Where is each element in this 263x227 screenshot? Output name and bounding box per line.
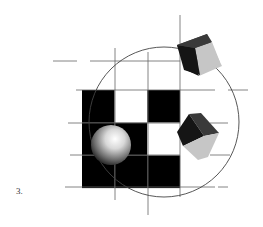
- cube-right: [177, 113, 219, 160]
- figure-label: 3.: [16, 186, 23, 196]
- grid-cell-0-0-black: [82, 90, 115, 123]
- grid-cell-1-2-white: [147, 123, 180, 156]
- grid-cell-0-1-white: [115, 90, 148, 123]
- cube-top-right: [177, 34, 222, 76]
- figure-canvas: [0, 0, 263, 227]
- sphere: [91, 125, 131, 165]
- grid-cell-2-2-black: [147, 155, 180, 188]
- grid-cell-0-2-black: [147, 90, 180, 123]
